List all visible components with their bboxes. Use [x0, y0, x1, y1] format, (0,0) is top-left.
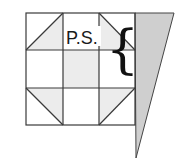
side-triangle: [135, 13, 174, 158]
shade-center-square: [63, 50, 99, 88]
curly-brace: {: [106, 19, 139, 79]
ps-label: P.S.: [66, 28, 98, 48]
quilt-block-diagram: P.S. {: [0, 0, 178, 165]
